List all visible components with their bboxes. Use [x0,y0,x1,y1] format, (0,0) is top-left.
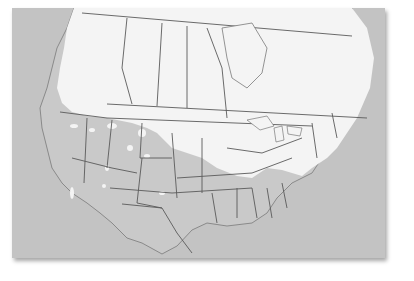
map-frame [12,8,385,258]
range-map [12,8,385,258]
